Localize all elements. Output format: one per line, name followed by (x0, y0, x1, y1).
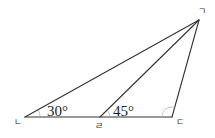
angle-label-30: 30° (47, 103, 68, 119)
vertex-label-nieun: ㄴ (14, 117, 22, 127)
vertex-label-giyeok: ㄱ (198, 6, 206, 16)
triangle-diagram: ㄱ ㄴ ㄷ ㄹ 30° 45° (0, 0, 215, 138)
vertex-label-digeut: ㄷ (176, 117, 184, 127)
vertex-label-rieul: ㄹ (95, 121, 103, 131)
angle-arc-rieul (107, 110, 110, 117)
angle-arc-nieun (38, 110, 40, 117)
angle-label-45: 45° (113, 103, 134, 119)
segment-giyeok-digeut (172, 20, 199, 117)
